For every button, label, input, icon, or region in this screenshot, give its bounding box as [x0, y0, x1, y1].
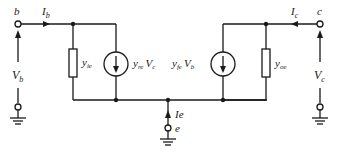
base-voltage-label: Vb	[12, 68, 23, 84]
output-admittance-resistor	[262, 49, 270, 77]
ground-icon	[312, 110, 328, 124]
circuit-diagram: b Ib Vb yie yreVc Ie e	[0, 0, 340, 158]
base-terminal	[15, 21, 21, 27]
base-current-arrow-icon	[43, 21, 50, 27]
collector-current-label: Ic	[290, 5, 299, 20]
emitter-terminal	[165, 125, 171, 131]
base-terminal-label: b	[14, 5, 20, 17]
collector-current-arrow-icon	[291, 21, 298, 27]
collector-voltage-arrow	[317, 30, 323, 103]
ground-icon	[160, 131, 176, 145]
base-voltage-arrow	[15, 30, 21, 103]
reverse-source-label: yreVc	[132, 57, 156, 71]
base-input-wire	[21, 21, 116, 52]
collector-terminal-label: c	[317, 5, 322, 17]
arrow-up-icon	[15, 30, 21, 38]
input-admittance-label: yie	[81, 56, 92, 70]
emitter-terminal-label: e	[175, 122, 180, 134]
forward-source-label: yfeVb	[171, 57, 195, 71]
base-current-label: Ib	[41, 5, 50, 20]
ground-icon	[10, 110, 26, 124]
emitter-current-label: Ie	[174, 108, 184, 120]
output-admittance-label: yoe	[274, 57, 287, 71]
base-ground-terminal	[15, 104, 21, 110]
input-admittance-resistor	[69, 49, 77, 77]
arrow-up-icon	[317, 30, 323, 38]
collector-terminal	[317, 21, 323, 27]
collector-ground-terminal	[317, 104, 323, 110]
emitter-current-arrow-icon	[165, 110, 171, 118]
junction-dot	[114, 98, 118, 102]
collector-voltage-label: Vc	[314, 68, 325, 84]
